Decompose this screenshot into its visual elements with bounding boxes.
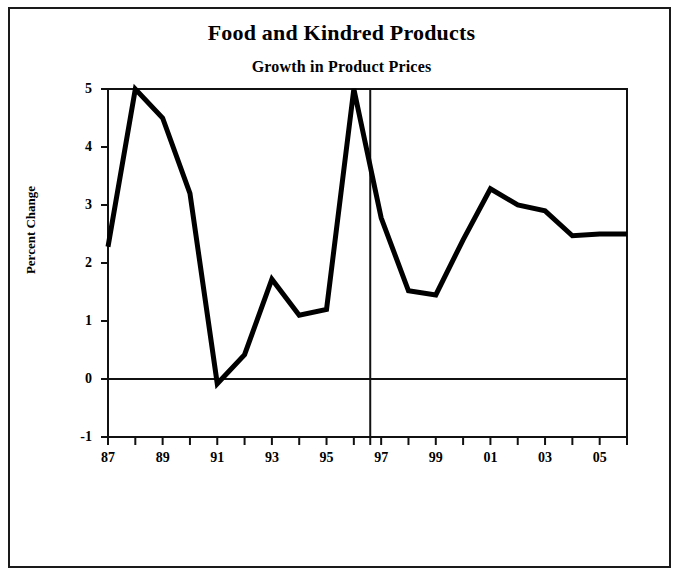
x-tick-label: 99 [416, 451, 456, 465]
x-tick-label: 05 [580, 451, 620, 465]
y-tick-label: 0 [66, 372, 92, 386]
x-tick-label: 87 [88, 451, 128, 465]
y-tick-label: 2 [66, 256, 92, 270]
x-tick-label: 03 [525, 451, 565, 465]
y-tick-label: 5 [66, 82, 92, 96]
x-tick-label: 01 [470, 451, 510, 465]
x-tick-label: 97 [361, 451, 401, 465]
y-tick-label: -1 [66, 430, 92, 444]
y-axis-ticks [101, 89, 108, 437]
plot-area [0, 0, 683, 579]
x-tick-label: 95 [307, 451, 347, 465]
axis-frame [108, 89, 627, 437]
y-tick-label: 1 [66, 314, 92, 328]
y-tick-label: 4 [66, 140, 92, 154]
chart-figure: Food and Kindred Products Growth in Prod… [0, 0, 683, 579]
x-tick-label: 89 [143, 451, 183, 465]
x-tick-label: 93 [252, 451, 292, 465]
data-series-line [108, 89, 627, 384]
x-axis-ticks [108, 437, 627, 445]
x-tick-label: 91 [197, 451, 237, 465]
y-tick-label: 3 [66, 198, 92, 212]
